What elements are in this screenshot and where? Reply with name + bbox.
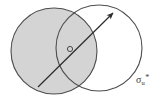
sigma-symbol: σ xyxy=(136,74,141,85)
figure-container: σu* xyxy=(0,0,162,103)
sigma-u-star-label: σu* xyxy=(136,74,149,87)
shaded-circle xyxy=(11,8,97,94)
center-marker xyxy=(67,46,72,51)
sigma-superscript: * xyxy=(145,73,149,82)
figure-svg xyxy=(0,0,162,103)
